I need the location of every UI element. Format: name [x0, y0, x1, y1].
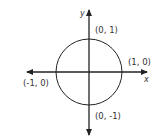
point-label-right: (1, 0)	[128, 57, 151, 67]
x-axis-label: x	[143, 75, 149, 84]
unit-circle-diagram: y x (0, 1) (1, 0) (-1, 0) (0, -1)	[0, 0, 159, 139]
point-label-bottom: (0, -1)	[95, 111, 121, 121]
y-axis-label: y	[79, 9, 85, 18]
point-label-top: (0, 1)	[95, 25, 118, 35]
point-label-left: (-1, 0)	[23, 78, 49, 88]
